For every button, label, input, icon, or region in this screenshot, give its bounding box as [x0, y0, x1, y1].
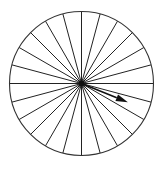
center-hub [79, 81, 85, 87]
spoke [12, 84, 82, 103]
spoke [63, 14, 82, 84]
direction-arrow [82, 84, 128, 103]
spoke [82, 65, 152, 84]
spoke [82, 14, 101, 84]
spoke [63, 84, 82, 154]
spoke [12, 65, 82, 84]
diagram-stage [0, 0, 157, 175]
spoked-circle-diagram [0, 0, 157, 175]
arrow-shaft [82, 84, 117, 98]
spoke [82, 84, 101, 154]
